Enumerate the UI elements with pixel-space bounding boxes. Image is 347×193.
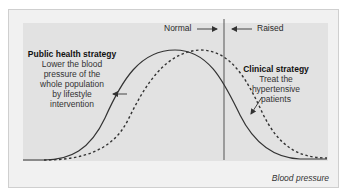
public-health-line: by lifestyle	[24, 89, 120, 99]
normal-label: Normal	[164, 23, 191, 33]
public-health-line: intervention	[24, 99, 120, 109]
public-health-line: Lower the blood	[24, 59, 120, 69]
public-health-line: whole population	[24, 79, 120, 89]
x-axis-label: Blood pressure	[272, 173, 329, 183]
clinical-title: Clinical strategy	[236, 64, 316, 74]
clinical-annotation: Clinical strategy Treat the hypertensive…	[236, 64, 316, 104]
public-health-annotation: Public health strategy Lower the blood p…	[24, 49, 120, 109]
clinical-line: patients	[236, 94, 316, 104]
clinical-line: hypertensive	[236, 84, 316, 94]
public-health-title: Public health strategy	[24, 49, 120, 59]
clinical-line: Treat the	[236, 74, 316, 84]
raised-label: Raised	[257, 23, 283, 33]
public-health-line: pressure of the	[24, 69, 120, 79]
